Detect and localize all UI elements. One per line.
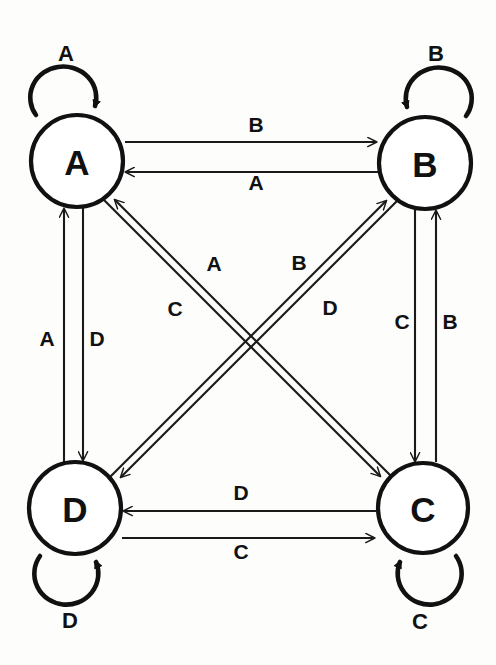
node-b[interactable]: B [379, 117, 471, 209]
edge-label-b-to-d: D [322, 296, 337, 319]
edge-label-d-to-c: C [233, 540, 248, 563]
edge-label-d-to-a: A [39, 327, 54, 350]
edge-label-c-to-a: A [206, 252, 221, 275]
edge-label-a-to-d: D [89, 327, 104, 350]
self-loop-arc-d [34, 556, 98, 605]
edge-c-to-a [115, 200, 391, 476]
self-loop-arc-a [30, 67, 96, 115]
edge-label-c-to-d: D [233, 481, 248, 504]
self-loop-label-d: D [62, 608, 78, 633]
edge-group-a-b: B A [125, 113, 378, 194]
edge-label-a-to-b: B [248, 113, 263, 136]
node-a[interactable]: A [31, 115, 123, 207]
state-diagram-svg: B A D C A D C B A [0, 0, 496, 665]
self-loop-label-a: A [58, 41, 74, 66]
edge-group-a-c: A C [104, 200, 391, 476]
edge-group-a-d: A D [39, 208, 104, 462]
node-c[interactable]: C [378, 463, 468, 553]
edge-a-to-c [104, 200, 380, 476]
state-diagram-canvas: B A D C A D C B A [0, 0, 496, 665]
self-loop-label-c: C [412, 609, 428, 634]
edge-d-to-b [110, 201, 386, 477]
edge-label-a-to-c: C [167, 297, 182, 320]
edge-b-to-d [121, 201, 397, 477]
self-loop-label-b: B [428, 41, 444, 66]
node-d[interactable]: D [29, 462, 121, 554]
edge-label-c-to-b: B [442, 310, 457, 333]
self-loop-group-c: C [398, 556, 462, 634]
edge-label-b-to-a: A [248, 171, 263, 194]
edge-label-b-to-c: C [394, 310, 409, 333]
node-label-b: B [412, 145, 437, 184]
self-loop-group-b: B [406, 41, 472, 117]
edge-group-d-c: D C [122, 481, 376, 563]
node-label-c: C [410, 490, 435, 529]
self-loop-group-d: D [34, 556, 98, 633]
edge-label-d-to-b: B [291, 251, 306, 274]
self-loop-group-a: A [30, 41, 96, 116]
self-loop-arc-b [406, 68, 472, 116]
node-label-d: D [62, 490, 87, 529]
self-loop-arc-c [398, 556, 462, 605]
node-label-a: A [64, 143, 89, 182]
edge-group-b-c: C B [394, 210, 457, 462]
